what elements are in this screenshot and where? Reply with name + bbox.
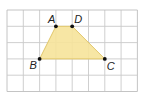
vertex-dot-b [38,57,42,61]
label-a: A [47,13,55,25]
trapezoid-diagram: A D B C [0,0,141,98]
label-c: C [107,60,115,72]
label-b: B [30,59,37,71]
label-d: D [74,13,82,25]
grid-canvas: A D B C [0,0,141,98]
